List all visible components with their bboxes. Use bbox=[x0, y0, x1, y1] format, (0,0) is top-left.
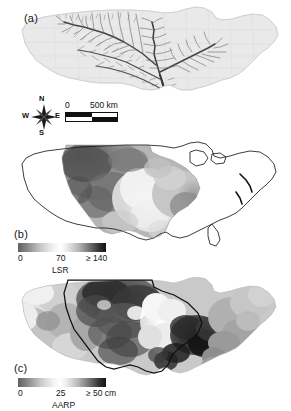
compass-south-label: S bbox=[39, 129, 44, 137]
figure-container: (a) N S E W 0 bbox=[0, 0, 291, 411]
aarp-colorbar-gradient bbox=[18, 378, 106, 387]
scale-bar-row-bottom bbox=[66, 117, 117, 121]
panel-b-label: (b) bbox=[14, 229, 28, 240]
scale-bar-labels: 0 500 km bbox=[65, 100, 135, 111]
aarp-tick-mid: 25 bbox=[56, 388, 65, 398]
panel-a: (a) N S E W 0 bbox=[0, 0, 291, 140]
panel-c: (c) 0 25 ≥ 50 cm AARP bbox=[0, 277, 291, 411]
lsr-tick-max: ≥ 140 bbox=[86, 253, 107, 263]
scale-bar-max-label: 500 km bbox=[90, 100, 118, 110]
aarp-tick-max: ≥ 50 cm bbox=[86, 388, 116, 398]
lsr-raster bbox=[54, 140, 215, 245]
scale-bar-segment bbox=[66, 117, 92, 121]
scale-bar-segment bbox=[92, 117, 118, 121]
lsr-tick-min: 0 bbox=[18, 253, 23, 263]
panel-c-label: (c) bbox=[14, 363, 27, 374]
panel-b: (b) 0 70 ≥ 140 LSR bbox=[0, 140, 291, 277]
coastline-emphasis-b bbox=[236, 174, 252, 204]
lsr-colorbar-gradient bbox=[18, 243, 106, 252]
compass-rose: N S E W bbox=[22, 96, 66, 138]
aarp-colorbar-ticks: 0 25 ≥ 50 cm bbox=[18, 388, 126, 400]
lsr-colorbar: 0 70 ≥ 140 LSR bbox=[18, 243, 126, 275]
scale-bar-min-label: 0 bbox=[65, 100, 70, 110]
aarp-tick-min: 0 bbox=[18, 388, 23, 398]
scale-bar: 0 500 km bbox=[65, 100, 135, 122]
lsr-tick-mid: 70 bbox=[56, 253, 65, 263]
scale-bar-graphic bbox=[65, 112, 118, 122]
compass-north-label: N bbox=[39, 95, 44, 103]
aarp-colorbar-title: AARP bbox=[52, 400, 126, 410]
compass-east-label: E bbox=[55, 112, 60, 120]
lsr-colorbar-title: LSR bbox=[52, 265, 126, 275]
aarp-raster-gulf bbox=[200, 357, 224, 381]
aarp-colorbar: 0 25 ≥ 50 cm AARP bbox=[18, 378, 126, 410]
panel-a-label: (a) bbox=[24, 13, 38, 24]
compass-west-label: W bbox=[22, 112, 29, 120]
lsr-colorbar-ticks: 0 70 ≥ 140 bbox=[18, 253, 126, 265]
